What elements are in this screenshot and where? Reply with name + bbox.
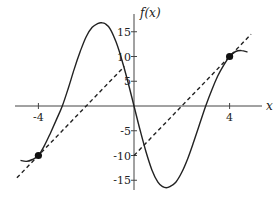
x-tick-label: -4 xyxy=(33,111,44,124)
y-axis: f(x) 15105-5-10-15 xyxy=(113,6,161,190)
y-tick-label: -15 xyxy=(113,174,131,187)
x-axis-label: x xyxy=(266,99,273,113)
marked-point xyxy=(35,152,42,159)
y-tick-label: 15 xyxy=(117,26,131,39)
marked-point xyxy=(226,53,233,60)
secant-right-line xyxy=(134,34,251,155)
y-axis-label: f(x) xyxy=(139,6,161,20)
x-axis: x -44 xyxy=(15,99,273,124)
x-tick-label: 4 xyxy=(226,111,233,124)
y-tick-label: -10 xyxy=(113,150,131,163)
y-tick-label: -5 xyxy=(120,125,131,138)
function-plot: x -44 f(x) 15105-5-10-15 xyxy=(0,0,280,202)
